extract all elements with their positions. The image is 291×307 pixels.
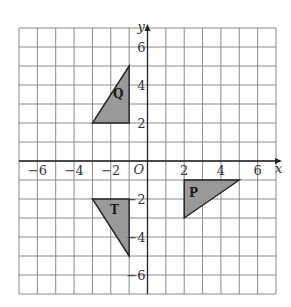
y-axis-label: y <box>137 19 146 34</box>
shape-label-q: Q <box>113 87 123 101</box>
x-tick-label: 2 <box>180 163 188 178</box>
origin-label: O <box>134 162 145 177</box>
x-tick-label: −2 <box>101 163 120 178</box>
y-tick-label: −2 <box>126 192 145 207</box>
shape-label-t: T <box>110 203 119 217</box>
x-tick-label: 4 <box>217 163 225 178</box>
x-tick-label: −6 <box>28 163 47 178</box>
y-tick-label: 6 <box>137 40 145 55</box>
shape-label-p: P <box>189 186 198 200</box>
y-tick-label: 4 <box>137 78 145 93</box>
y-tick-label: 2 <box>137 116 145 131</box>
x-tick-label: 6 <box>254 163 262 178</box>
x-axis-label: x <box>275 161 283 176</box>
x-tick-label: −4 <box>64 163 83 178</box>
y-tick-label: −6 <box>126 268 145 283</box>
coordinate-grid: xyO−6−4−2246642−2−4−6QTP <box>0 0 291 307</box>
y-tick-label: −4 <box>126 230 145 245</box>
